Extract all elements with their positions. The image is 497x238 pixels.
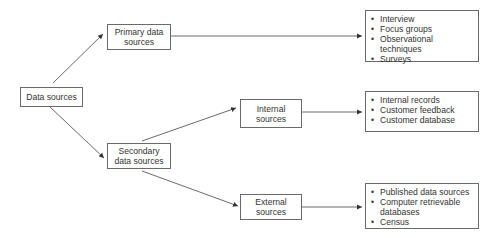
secondary-data-sources-node: Secondary data sources <box>107 143 171 169</box>
list-item: Focus groups <box>371 24 474 34</box>
list-item: Observational techniques <box>371 34 474 54</box>
list-item: Interview <box>371 14 474 24</box>
secondary-label-line2: data sources <box>114 156 163 166</box>
list-item: Internal records <box>371 95 474 105</box>
list-item: Customer database <box>371 115 474 125</box>
external-label-line1: External <box>255 197 287 207</box>
external-sources-list: Published data sources Computer retrieva… <box>365 183 479 229</box>
secondary-label-line1: Secondary <box>114 146 163 156</box>
list-item: Computer retrievable databases <box>371 197 474 217</box>
primary-label-line2: sources <box>115 37 164 47</box>
external-label-line2: sources <box>255 207 287 217</box>
primary-label-line1: Primary data <box>115 27 164 37</box>
internal-label-line2: sources <box>256 114 286 124</box>
internal-label-line1: Internal <box>256 104 286 114</box>
list-item: Census <box>371 217 474 227</box>
external-sources-node: External sources <box>240 194 302 220</box>
data-sources-label: Data sources <box>26 92 77 102</box>
list-item: Customer feedback <box>371 105 474 115</box>
primary-data-sources-node: Primary data sources <box>107 24 171 50</box>
list-item: Surveys <box>371 54 474 64</box>
primary-methods-list: Interview Focus groups Observational tec… <box>365 10 479 62</box>
list-item: Published data sources <box>371 187 474 197</box>
internal-sources-list: Internal records Customer feedback Custo… <box>365 91 479 132</box>
internal-sources-node: Internal sources <box>240 99 302 128</box>
data-sources-node: Data sources <box>20 87 83 107</box>
